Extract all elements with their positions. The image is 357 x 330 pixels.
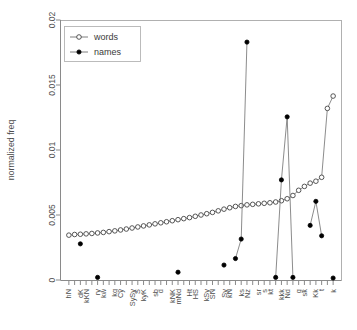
data-point [222, 263, 226, 267]
data-point [314, 179, 319, 184]
data-point [101, 230, 106, 235]
data-point [285, 196, 290, 201]
data-point [245, 203, 250, 208]
data-point [227, 205, 232, 210]
data-point [210, 210, 215, 215]
data-point [113, 229, 118, 234]
data-point [141, 224, 146, 229]
x-tick-label: kw [99, 288, 108, 298]
data-point [273, 200, 278, 205]
data-point [233, 256, 237, 260]
data-point [262, 201, 267, 206]
data-point [274, 275, 278, 279]
x-tick-label: SN [208, 289, 217, 299]
data-point [199, 213, 204, 218]
data-point [158, 221, 163, 226]
data-point [164, 219, 169, 224]
data-point [130, 226, 135, 231]
data-point [285, 115, 289, 119]
data-point [222, 207, 227, 212]
data-point [314, 199, 318, 203]
data-point [256, 202, 261, 207]
y-axis: 00.0050.010.0150.02 [47, 11, 61, 282]
y-tick-label: 0.02 [47, 11, 57, 28]
legend-marker [77, 35, 82, 40]
data-point [331, 94, 336, 99]
chart-container: 00.0050.010.0150.02 hNdKkKNrykwkgCySySyS… [0, 0, 357, 330]
legend-label: names [94, 47, 122, 57]
data-point [268, 200, 273, 205]
data-point [325, 106, 330, 111]
data-point [239, 203, 244, 208]
series-words [67, 94, 336, 238]
x-tick-label: k [329, 289, 338, 293]
data-point [279, 178, 283, 182]
data-point [95, 231, 100, 236]
data-point [181, 216, 186, 221]
legend-marker [77, 50, 81, 54]
x-tick-label: kyK [139, 289, 148, 301]
x-tick-label: kN [225, 289, 234, 298]
series-names [78, 40, 335, 280]
data-point [90, 231, 95, 236]
data-point [216, 209, 221, 214]
data-point [176, 270, 180, 274]
data-point [78, 232, 83, 237]
normalized-freq-scatter-plot: 00.0050.010.0150.02 hNdKkKNrykwkgCySySyS… [0, 0, 357, 330]
data-point [72, 232, 77, 237]
data-point [320, 234, 324, 238]
x-tick-label: mNd [174, 289, 183, 305]
chart-legend: wordsnames [65, 27, 141, 62]
y-tick-label: 0.01 [47, 141, 57, 158]
y-tick-label: 0.005 [47, 204, 57, 226]
x-tick-label: kKN [82, 289, 91, 303]
data-point [147, 223, 152, 228]
data-point [296, 188, 301, 193]
data-point [250, 202, 255, 207]
data-point [239, 237, 243, 241]
data-point [107, 229, 112, 234]
data-point [78, 242, 82, 246]
x-tick-label: Cy [116, 289, 125, 298]
x-tick-label: kt [266, 289, 275, 295]
data-point [308, 181, 313, 186]
data-point [291, 193, 296, 198]
data-series-layer [67, 40, 336, 280]
data-point [170, 218, 175, 223]
data-point [308, 223, 312, 227]
data-point [204, 211, 209, 216]
x-tick-label: d [156, 289, 165, 293]
data-point [193, 214, 198, 219]
data-point [118, 228, 123, 233]
data-point [302, 184, 307, 189]
y-tick-label: 0.015 [47, 74, 57, 96]
y-tick-label: 0 [47, 277, 57, 282]
x-tick-label: HS [191, 289, 200, 299]
x-axis: hNdKkKNrykwkgCySySySkyKsbdkNKmNdHtHSkSyS… [61, 281, 341, 307]
x-tick-label: Nd [283, 289, 292, 298]
data-point [291, 275, 295, 279]
data-point [245, 40, 249, 44]
data-point [124, 227, 129, 232]
data-point [331, 276, 335, 280]
data-point [136, 225, 141, 230]
data-point [176, 217, 181, 222]
x-tick-label: Nz [243, 289, 252, 298]
y-axis-title: normalized freq [6, 120, 16, 181]
data-point [84, 232, 89, 237]
data-point [67, 233, 72, 238]
x-tick-label: sk [300, 289, 309, 297]
x-tick-label: hN [64, 289, 73, 298]
legend-label: words [93, 32, 119, 42]
data-point [153, 222, 158, 227]
data-point [233, 204, 238, 209]
data-point [187, 215, 192, 220]
x-tick-label: t [317, 289, 326, 291]
data-point [96, 275, 100, 279]
data-point [319, 175, 324, 180]
